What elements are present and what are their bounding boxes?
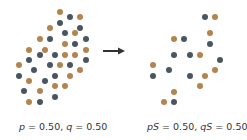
sampling-diagram: p = 0.50, q = 0.50 pS = 0.50, qS = 0.50 [0, 0, 247, 140]
dark-dot [47, 36, 53, 42]
ps-value: = 0.50, [159, 121, 200, 132]
q-value: = 0.50 [72, 121, 107, 132]
orange-dot [62, 83, 68, 89]
dark-dot [83, 57, 89, 63]
dark-dot [62, 30, 68, 36]
population-caption: p = 0.50, q = 0.50 [19, 121, 107, 132]
dark-dot [21, 88, 27, 94]
orange-dot [57, 9, 63, 15]
right-arrow-icon [103, 47, 125, 55]
orange-dot [37, 88, 43, 94]
dark-dot [37, 99, 43, 105]
dark-dot [171, 52, 177, 58]
dark-dot [77, 25, 83, 31]
dark-dot [47, 62, 53, 68]
dark-dot [37, 52, 43, 58]
dark-dot [57, 20, 63, 26]
dark-dot [26, 57, 32, 63]
orange-dot [202, 73, 208, 79]
orange-dot [83, 47, 89, 53]
orange-dot [67, 73, 73, 79]
dark-dot [217, 57, 223, 63]
orange-dot [52, 83, 58, 89]
orange-dot [47, 25, 53, 31]
orange-dot [161, 99, 167, 105]
orange-dot [171, 89, 177, 95]
orange-dot [207, 30, 213, 36]
orange-dot [197, 83, 203, 89]
orange-dot [37, 36, 43, 42]
orange-dot [26, 47, 32, 53]
orange-dot [26, 99, 32, 105]
dark-dot [187, 52, 193, 58]
qs-label: qS [200, 121, 212, 132]
dark-dot [202, 14, 208, 20]
dark-dot [150, 73, 156, 79]
orange-dot [62, 41, 68, 47]
qs-value: = 0.50 [212, 121, 247, 132]
orange-dot [171, 36, 177, 42]
p-value: = 0.50, [25, 121, 66, 132]
dark-dot [67, 62, 73, 68]
orange-dot [212, 67, 218, 73]
dark-dot [31, 67, 37, 73]
orange-dot [26, 78, 32, 84]
dark-dot [171, 99, 177, 105]
sample-caption: pS = 0.50, qS = 0.50 [147, 121, 247, 132]
dark-dot [181, 36, 187, 42]
orange-dot [77, 67, 83, 73]
orange-dot [42, 47, 48, 53]
orange-dot [62, 52, 68, 58]
dark-dot [187, 73, 193, 79]
orange-dot [72, 52, 78, 58]
dark-dot [52, 52, 58, 58]
dark-dot [166, 67, 172, 73]
orange-dot [57, 62, 63, 68]
dark-dot [83, 36, 89, 42]
orange-dot [72, 30, 78, 36]
dark-dot [42, 78, 48, 84]
orange-dot [150, 62, 156, 68]
dark-dot [72, 41, 78, 47]
dark-dot [67, 14, 73, 20]
orange-dot [77, 14, 83, 20]
dark-dot [16, 73, 22, 79]
orange-dot [197, 52, 203, 58]
dark-dot [52, 73, 58, 79]
dark-dot [52, 94, 58, 100]
orange-dot [16, 62, 22, 68]
orange-dot [212, 14, 218, 20]
ps-label: pS [147, 121, 159, 132]
dark-dot [207, 41, 213, 47]
